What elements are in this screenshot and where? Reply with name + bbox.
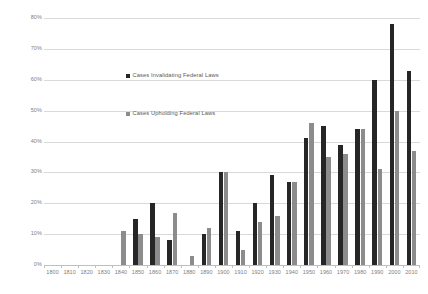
bar	[207, 228, 211, 265]
legend-swatch-icon-invalidating	[126, 74, 130, 78]
x-axis: 1800181018201830184018501860187018801890…	[44, 265, 420, 287]
x-axis-tick-label: 2010	[405, 270, 417, 276]
y-axis: 0%10%20%30%40%50%60%70%80%	[0, 18, 42, 265]
bar	[355, 129, 359, 265]
bar	[138, 234, 142, 265]
bar	[150, 203, 154, 265]
x-axis-tick-mark	[78, 265, 79, 268]
x-axis-tick-mark	[386, 265, 387, 268]
x-axis-tick-label: 1820	[81, 270, 93, 276]
bar	[270, 175, 274, 265]
y-axis-tick-label: 80%	[2, 15, 42, 21]
x-axis-tick-mark	[147, 265, 148, 268]
legend-entry-invalidating: Cases Invalidating Federal Laws	[126, 73, 219, 79]
x-axis-tick-mark	[249, 265, 250, 268]
x-axis-tick-mark	[317, 265, 318, 268]
bar-group	[181, 18, 198, 265]
bar-group	[112, 18, 129, 265]
x-axis-tick-label: 1800	[46, 270, 58, 276]
bar	[395, 111, 399, 265]
legend-swatch-icon-upholding	[126, 112, 130, 116]
x-axis-tick-mark	[95, 265, 96, 268]
bar	[378, 169, 382, 265]
bar	[287, 182, 291, 265]
x-axis-tick-label: 1950	[303, 270, 315, 276]
x-axis-tick-label: 1860	[149, 270, 161, 276]
y-axis-tick-label: 50%	[2, 108, 42, 114]
bar	[338, 145, 342, 265]
bar	[173, 213, 177, 265]
x-axis-tick-mark	[215, 265, 216, 268]
y-axis-tick-label: 0%	[2, 262, 42, 268]
bar	[326, 157, 330, 265]
x-axis-tick-label: 1910	[234, 270, 246, 276]
y-axis-tick-label: 20%	[2, 200, 42, 206]
bar	[292, 182, 296, 265]
bar	[309, 123, 313, 265]
x-axis-tick-mark	[283, 265, 284, 268]
x-axis-tick-label: 1870	[166, 270, 178, 276]
bar	[253, 203, 257, 265]
x-axis-tick-label: 1840	[115, 270, 127, 276]
x-axis-tick-label: 1830	[98, 270, 110, 276]
x-axis-tick-label: 1880	[183, 270, 195, 276]
x-axis-tick-label: 1900	[217, 270, 229, 276]
y-axis-tick-label: 60%	[2, 77, 42, 83]
bar	[321, 126, 325, 265]
x-axis-tick-mark	[61, 265, 62, 268]
x-axis-tick-mark	[129, 265, 130, 268]
bar-group	[215, 18, 232, 265]
bar	[167, 240, 171, 265]
bar	[390, 24, 394, 265]
bar-group	[61, 18, 78, 265]
bar	[224, 172, 228, 265]
x-axis-tick-label: 1940	[286, 270, 298, 276]
bar-group	[317, 18, 334, 265]
bar	[202, 234, 206, 265]
x-axis-tick-label: 1890	[200, 270, 212, 276]
x-axis-tick-mark	[300, 265, 301, 268]
x-axis-tick-mark	[112, 265, 113, 268]
bar-group	[352, 18, 369, 265]
bar-group	[78, 18, 95, 265]
y-axis-tick-label: 10%	[2, 231, 42, 237]
bar	[190, 256, 194, 265]
x-axis-tick-mark	[198, 265, 199, 268]
bar	[236, 231, 240, 265]
bar-group	[95, 18, 112, 265]
bar-group	[129, 18, 146, 265]
bar-group	[335, 18, 352, 265]
bar	[407, 71, 411, 266]
bar-group	[266, 18, 283, 265]
x-axis-tick-mark	[266, 265, 267, 268]
bar-group	[403, 18, 420, 265]
bar	[372, 80, 376, 265]
legend-label-upholding: Cases Upholding Federal Laws	[133, 111, 216, 117]
x-axis-tick-mark	[164, 265, 165, 268]
x-axis-tick-mark	[232, 265, 233, 268]
bar	[412, 151, 416, 265]
bar-group	[164, 18, 181, 265]
x-axis-tick-mark	[352, 265, 353, 268]
y-axis-tick-label: 70%	[2, 46, 42, 52]
x-axis-tick-mark	[419, 265, 420, 268]
x-axis-tick-label: 1930	[269, 270, 281, 276]
x-axis-tick-label: 2000	[388, 270, 400, 276]
x-axis-tick-mark	[335, 265, 336, 268]
bar-chart: 0%10%20%30%40%50%60%70%80% Cases Invalid…	[0, 0, 428, 294]
x-axis-tick-label: 1850	[132, 270, 144, 276]
bar-group	[300, 18, 317, 265]
x-axis-tick-label: 1810	[63, 270, 75, 276]
bar-group	[44, 18, 61, 265]
bar	[258, 222, 262, 265]
y-axis-tick-label: 40%	[2, 139, 42, 145]
legend-entry-upholding: Cases Upholding Federal Laws	[126, 111, 215, 117]
bar-group	[232, 18, 249, 265]
x-axis-tick-label: 1920	[251, 270, 263, 276]
bar	[304, 138, 308, 265]
bar	[343, 154, 347, 265]
bar	[219, 172, 223, 265]
x-axis-tick-mark	[369, 265, 370, 268]
plot-area: Cases Invalidating Federal Laws Cases Up…	[44, 18, 420, 265]
legend-label-invalidating: Cases Invalidating Federal Laws	[133, 73, 219, 79]
